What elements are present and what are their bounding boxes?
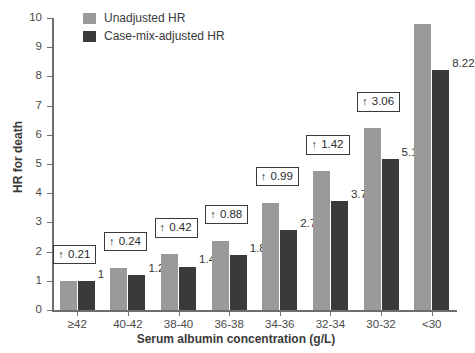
arrow-up-icon: ↑ (261, 170, 267, 182)
annotation-box: ↑ 0.99 (256, 167, 299, 187)
annotation-box: ↑ 1.42 (306, 135, 349, 155)
bar-unadjusted (212, 241, 229, 310)
x-axis-line (52, 310, 457, 312)
x-tick (77, 311, 78, 316)
x-tick-label: ≥42 (68, 319, 87, 331)
annotation-value: 3.06 (369, 95, 395, 107)
x-tick-label: 40-42 (113, 319, 142, 331)
y-tick-label: 3 (0, 217, 42, 229)
annotation-box: ↑ 0.42 (155, 218, 198, 238)
bar-value-label: 1 (98, 269, 104, 281)
bar-unadjusted (262, 203, 279, 310)
y-tick-label: 0 (0, 304, 42, 316)
bar-unadjusted (161, 254, 178, 310)
x-tick-label: 32-34 (316, 319, 345, 331)
x-tick (381, 311, 382, 316)
x-tick (128, 311, 129, 316)
bar-value-label: 8.22 (452, 58, 474, 70)
legend-swatch-icon (83, 31, 96, 42)
bar-unadjusted (60, 281, 77, 310)
y-tick-label: 10 (0, 12, 42, 24)
annotation-value: 1.42 (318, 138, 344, 150)
annotation-value: 0.88 (217, 208, 243, 220)
legend-label: Unadjusted HR (104, 12, 185, 24)
x-tick (179, 311, 180, 316)
legend-label: Case-mix-adjusted HR (104, 30, 225, 42)
arrow-up-icon: ↑ (109, 235, 115, 247)
bar-adjusted (179, 267, 196, 311)
annotation-box: ↑ 0.24 (104, 232, 147, 252)
arrow-up-icon: ↑ (311, 138, 317, 150)
x-axis-title: Serum albumin concentration (g/L) (0, 332, 472, 346)
chart-legend: Unadjusted HRCase-mix-adjusted HR (83, 12, 225, 48)
arrow-up-icon: ↑ (210, 208, 216, 220)
annotation-value: 0.42 (166, 221, 192, 233)
x-tick-label: 34-36 (265, 319, 294, 331)
arrow-up-icon: ↑ (362, 95, 368, 107)
bar-adjusted (78, 281, 95, 310)
arrow-up-icon: ↑ (160, 221, 166, 233)
bar-unadjusted (414, 24, 431, 310)
bar-unadjusted (110, 268, 127, 310)
bar-adjusted (128, 275, 145, 310)
annotation-value: 0.99 (267, 170, 293, 182)
bar-unadjusted (313, 171, 330, 310)
annotation-box: ↑ 0.88 (205, 205, 248, 225)
y-tick-label: 1 (0, 275, 42, 287)
x-tick-label: <30 (422, 319, 442, 331)
legend-item: Case-mix-adjusted HR (83, 30, 225, 42)
bar-adjusted (432, 70, 449, 310)
x-tick-label: 38-40 (164, 319, 193, 331)
y-tick (47, 310, 52, 311)
y-tick-label: 8 (0, 71, 42, 83)
annotation-box: ↑ 3.06 (357, 92, 400, 112)
y-tick-label: 9 (0, 41, 42, 53)
bar-unadjusted (364, 128, 381, 310)
x-tick-label: 30-32 (366, 319, 395, 331)
y-axis-title: HR for death (11, 107, 25, 207)
bar-adjusted (230, 255, 247, 310)
plot-area: 11.211.491.872.753.745.168.22↑ 0.21↑ 0.2… (52, 18, 457, 310)
y-tick-label: 2 (0, 246, 42, 258)
x-tick (330, 311, 331, 316)
x-tick (280, 311, 281, 316)
x-tick-label: 36-38 (214, 319, 243, 331)
annotation-value: 0.21 (65, 248, 91, 260)
legend-item: Unadjusted HR (83, 12, 225, 24)
x-tick (432, 311, 433, 316)
bar-adjusted (382, 159, 399, 310)
x-tick (229, 311, 230, 316)
annotation-value: 0.24 (115, 235, 141, 247)
bar-adjusted (280, 230, 297, 310)
annotation-box: ↑ 0.21 (53, 245, 96, 265)
arrow-up-icon: ↑ (58, 248, 64, 260)
bar-adjusted (331, 201, 348, 310)
legend-swatch-icon (83, 13, 96, 24)
